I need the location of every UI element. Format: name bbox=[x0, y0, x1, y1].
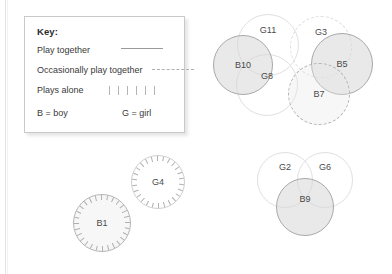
node-label-g6: G6 bbox=[319, 162, 331, 172]
node-label-b10: B10 bbox=[235, 60, 251, 70]
key-row-play-together-label: Play together bbox=[37, 45, 90, 55]
key-sample-solid-line bbox=[121, 48, 163, 57]
key-panel: Key: Play together Occasionally play tog… bbox=[24, 16, 185, 133]
node-b7[interactable]: B7 bbox=[288, 63, 350, 125]
key-row-occasionally-label: Occasionally play together bbox=[37, 65, 143, 75]
node-label-b5: B5 bbox=[336, 59, 347, 69]
node-label-b1: B1 bbox=[96, 218, 107, 228]
key-title: Key: bbox=[37, 26, 58, 37]
node-b1[interactable]: B1 bbox=[73, 194, 131, 252]
key-legend-boy: B = boy bbox=[37, 108, 68, 118]
key-sample-dashed-line bbox=[152, 69, 194, 78]
node-label-g4: G4 bbox=[152, 177, 164, 187]
key-sample-tick-marks bbox=[109, 85, 155, 96]
node-b9[interactable]: B9 bbox=[276, 178, 334, 236]
node-label-b9: B9 bbox=[299, 194, 310, 204]
node-label-b7: B7 bbox=[313, 89, 324, 99]
page-edge-rule-inner bbox=[7, 0, 8, 274]
node-label-g11: G11 bbox=[260, 25, 276, 35]
page-edge-rule bbox=[5, 0, 6, 274]
node-g4[interactable]: G4 bbox=[131, 155, 185, 209]
tick-marks-icon-b1 bbox=[74, 195, 130, 251]
tick-marks-icon-g4 bbox=[132, 156, 184, 208]
node-label-g3: G3 bbox=[315, 27, 327, 37]
node-b10[interactable]: B10 bbox=[213, 35, 273, 95]
node-label-g2: G2 bbox=[279, 162, 291, 172]
key-legend-girl: G = girl bbox=[122, 108, 151, 118]
diagram-page: Key: Play together Occasionally play tog… bbox=[0, 0, 392, 274]
key-row-plays-alone-label: Plays alone bbox=[37, 85, 84, 95]
